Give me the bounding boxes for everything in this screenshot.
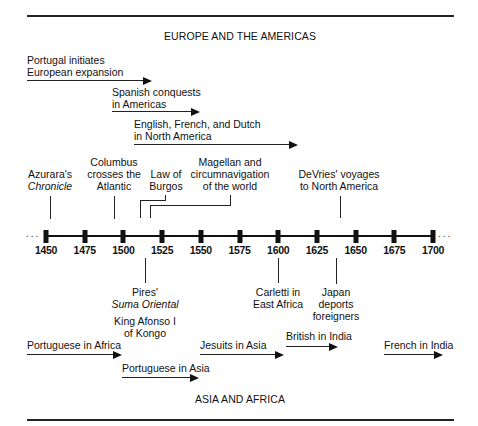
event-connector-devries bbox=[340, 196, 341, 218]
axis-start-dots: ... bbox=[26, 228, 40, 239]
europe-arrow-portugal bbox=[27, 80, 150, 81]
axis-label-1625: 1625 bbox=[306, 244, 328, 256]
asia-arrow-british-india bbox=[286, 346, 336, 347]
europe-arrow-spanish bbox=[112, 111, 198, 112]
axis-label-1650: 1650 bbox=[345, 244, 367, 256]
event-connector-burgos-c bbox=[140, 200, 141, 218]
axis-label-1475: 1475 bbox=[74, 244, 96, 256]
axis-tick-1575 bbox=[237, 230, 242, 243]
event-connector-magellan-c bbox=[150, 205, 151, 218]
axis-label-1700: 1700 bbox=[422, 244, 444, 256]
axis-tick-1650 bbox=[353, 230, 358, 243]
event-connector-azurara bbox=[50, 196, 51, 219]
axis-tick-1625 bbox=[314, 230, 319, 243]
event-connector-pires bbox=[145, 258, 146, 283]
event-columbus: Columbus crosses the Atlantic bbox=[87, 156, 141, 192]
axis-label-1450: 1450 bbox=[35, 244, 57, 256]
event-magellan: Magellan and circumnavigation of the wor… bbox=[191, 156, 270, 192]
event-law-of-burgos: Law of Burgos bbox=[149, 168, 182, 192]
event-connector-burgos-b bbox=[140, 200, 166, 201]
axis-tick-1475 bbox=[82, 230, 87, 243]
event-devries: DeVries' voyages to North America bbox=[299, 168, 380, 192]
event-connector-carletti bbox=[278, 258, 279, 283]
asia-arrow-label-portuguese-africa: Portuguese in Africa bbox=[27, 339, 121, 351]
asia-arrow-portuguese-asia bbox=[122, 377, 197, 378]
axis-label-1525: 1525 bbox=[151, 244, 173, 256]
bottom-rule bbox=[27, 419, 454, 421]
axis-tick-1600 bbox=[276, 230, 281, 243]
event-pires: Pires' Suma Oriental King Afonso I of Ko… bbox=[111, 286, 178, 339]
axis-tick-1450 bbox=[44, 230, 49, 243]
top-rule bbox=[27, 15, 454, 17]
axis-tick-1700 bbox=[431, 230, 436, 243]
asia-arrow-french-india bbox=[384, 354, 441, 355]
event-connector-columbus bbox=[114, 196, 115, 219]
event-connector-japan bbox=[336, 258, 337, 284]
axis-label-1600: 1600 bbox=[267, 244, 289, 256]
europe-americas-title: EUROPE AND THE AMERICAS bbox=[164, 30, 316, 42]
axis-label-1500: 1500 bbox=[112, 244, 134, 256]
axis-label-1675: 1675 bbox=[383, 244, 405, 256]
event-connector-magellan-b bbox=[150, 205, 231, 206]
europe-arrow-label-portugal: Portugal initiates European expansion bbox=[27, 54, 123, 78]
asia-africa-title: ASIA AND AFRICA bbox=[195, 393, 285, 405]
europe-arrow-label-spanish: Spanish conquests in Americas bbox=[112, 86, 201, 110]
event-carletti: Carletti in East Africa bbox=[253, 286, 303, 310]
axis-end-dots: ... bbox=[438, 228, 452, 239]
asia-arrow-jesuits bbox=[200, 354, 282, 355]
axis-tick-1525 bbox=[160, 230, 165, 243]
asia-arrow-portuguese-africa bbox=[27, 354, 120, 355]
event-azurara: Azurara's Chronicle bbox=[28, 168, 72, 192]
europe-arrow-english-french-dutch bbox=[134, 144, 296, 145]
asia-arrow-label-french-india: French in India bbox=[384, 339, 453, 351]
axis-tick-1500 bbox=[121, 230, 126, 243]
europe-arrow-label-english-french-dutch: English, French, and Dutch in North Amer… bbox=[134, 118, 261, 142]
axis-tick-1675 bbox=[392, 230, 397, 243]
asia-arrow-label-british-india: British in India bbox=[286, 330, 352, 342]
event-connector-magellan-a bbox=[230, 195, 231, 205]
asia-arrow-label-portuguese-asia: Portuguese in Asia bbox=[122, 362, 210, 374]
axis-label-1575: 1575 bbox=[228, 244, 250, 256]
asia-arrow-label-jesuits: Jesuits in Asia bbox=[200, 339, 267, 351]
axis-label-1550: 1550 bbox=[190, 244, 212, 256]
event-japan: Japan deports foreigners bbox=[313, 286, 360, 322]
axis-tick-1550 bbox=[198, 230, 203, 243]
